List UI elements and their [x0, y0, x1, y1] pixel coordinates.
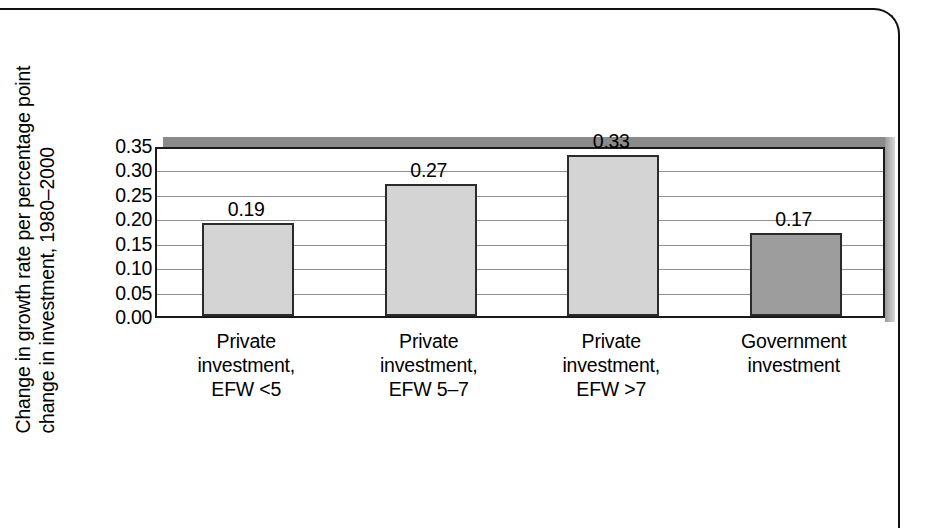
y-axis-tick-labels: 0.350.300.250.200.150.100.050.00: [88, 0, 152, 461]
bar: [202, 223, 294, 316]
y-axis-tick-label: 0.00: [88, 308, 152, 328]
bar: [567, 155, 659, 316]
category-label-line: Private: [562, 330, 660, 354]
category-label-line: investment,: [562, 354, 660, 378]
category-label-line: EFW >7: [562, 378, 660, 402]
y-axis-tick-label: 0.30: [88, 162, 152, 182]
bar: [750, 233, 842, 316]
gridline: [157, 196, 883, 197]
y-axis-tick-label: 0.35: [88, 137, 152, 157]
frame-top-rule: [0, 8, 40, 10]
x-axis-category-labels: Privateinvestment,EFW <5Privateinvestmen…: [155, 330, 885, 440]
y-axis-tick-label: 0.20: [88, 211, 152, 231]
x-axis-category-label: Privateinvestment,EFW 5–7: [380, 330, 478, 401]
bar-value-label: 0.27: [410, 161, 447, 181]
y-axis-tick-label: 0.05: [88, 284, 152, 304]
y-axis-title: Change in growth rate per percentage poi…: [14, 16, 86, 416]
plot-area: [155, 147, 885, 318]
gridline: [157, 171, 883, 172]
category-label-line: EFW 5–7: [380, 378, 478, 402]
bar-value-label: 0.17: [775, 210, 812, 230]
y-axis-title-line-2: change in investment, 1980–2000: [38, 34, 58, 434]
category-label-line: investment,: [380, 354, 478, 378]
x-axis-category-label: Privateinvestment,EFW >7: [562, 330, 660, 401]
category-label-line: Private: [197, 330, 295, 354]
category-label-line: investment,: [197, 354, 295, 378]
category-label-line: investment: [741, 354, 846, 378]
y-axis-tick-label: 0.25: [88, 186, 152, 206]
y-axis-tick-label: 0.10: [88, 259, 152, 279]
gridline: [157, 220, 883, 221]
x-axis-category-label: Governmentinvestment: [741, 330, 846, 378]
x-axis-category-label: Privateinvestment,EFW <5: [197, 330, 295, 401]
bar-value-label: 0.19: [228, 200, 265, 220]
bar: [385, 184, 477, 316]
bar-value-label: 0.33: [593, 132, 630, 152]
category-label-line: EFW <5: [197, 378, 295, 402]
y-axis-tick-label: 0.15: [88, 235, 152, 255]
category-label-line: Government: [741, 330, 846, 354]
plot-area-shadow-edge: [885, 137, 895, 322]
y-axis-title-line-1: Change in growth rate per percentage poi…: [14, 34, 34, 434]
category-label-line: Private: [380, 330, 478, 354]
